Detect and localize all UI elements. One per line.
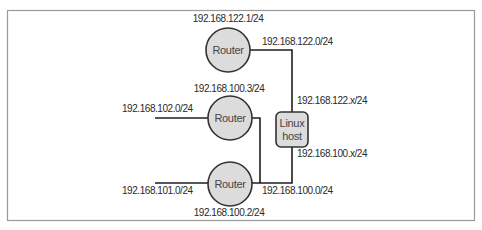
router-top-address: 192.168.122.1/24 [193, 13, 265, 24]
router-bottom-address: 192.168.100.2/24 [194, 207, 266, 218]
router-middle: Router [208, 96, 252, 140]
network-122-label: 192.168.122.0/24 [262, 36, 334, 47]
linux-host-label-line1: Linux [280, 117, 306, 129]
network-100-label: 192.168.100.0/24 [262, 185, 334, 196]
host-interface-122-label: 192.168.122.x/24 [297, 95, 368, 106]
router-middle-address: 192.168.100.3/24 [194, 83, 266, 94]
network-102-label: 192.168.102.0/24 [122, 103, 194, 114]
router-top-label: Router [212, 44, 244, 56]
router-bottom: Router [208, 162, 252, 206]
linux-host: Linux host [276, 112, 308, 147]
router-bottom-label: Router [214, 178, 246, 190]
host-interface-100-label: 192.168.100.x/24 [297, 148, 368, 159]
network-101-label: 192.168.101.0/24 [122, 185, 194, 196]
router-top: Router [206, 28, 250, 72]
linux-host-label-line2: host [282, 130, 302, 142]
network-diagram: Router Router Router Linux host 192.168.… [0, 0, 482, 230]
router-middle-label: Router [214, 112, 246, 124]
